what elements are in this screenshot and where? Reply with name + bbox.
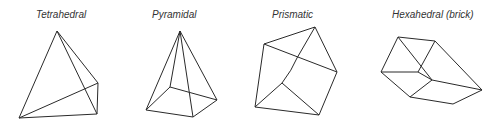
pyramidal-shape <box>146 31 217 117</box>
tetrahedral-shape <box>19 31 98 118</box>
prismatic-shape <box>255 27 337 115</box>
element-shapes-diagram <box>0 0 501 125</box>
hexahedral-shape <box>381 37 482 104</box>
